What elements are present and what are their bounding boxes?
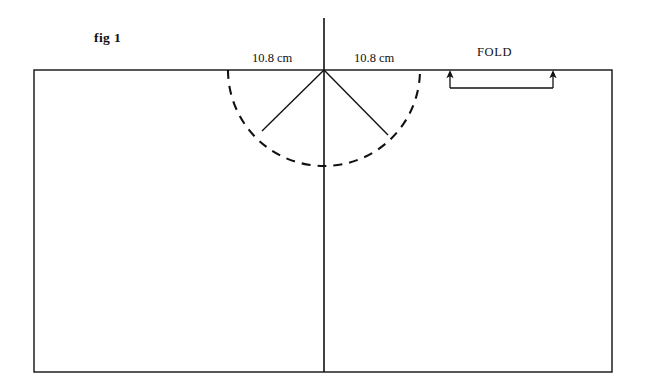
pattern-diagram: [0, 0, 647, 392]
figure-canvas: fig 1 10.8 cm 10.8 cm FOLD: [0, 0, 647, 392]
radial-line-right: [324, 70, 388, 135]
fold-label: FOLD: [477, 45, 512, 60]
dimension-label-right: 10.8 cm: [354, 51, 394, 66]
radial-line-left: [262, 70, 324, 131]
figure-caption: fig 1: [94, 30, 121, 46]
fabric-panel-rectangle: [34, 70, 612, 372]
dimension-label-left: 10.8 cm: [252, 51, 292, 66]
